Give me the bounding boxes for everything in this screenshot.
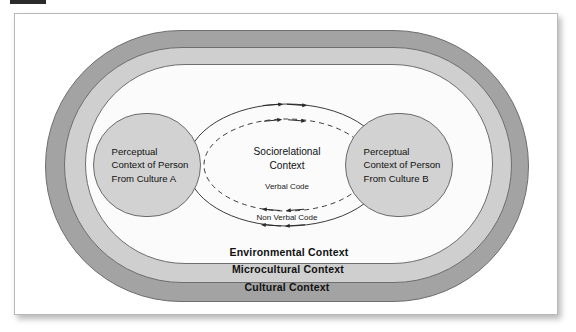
nonverbal-arrow-top-left [263, 104, 281, 105]
scan-edge-artifact [10, 0, 46, 4]
perceptual-context-person-a-label: Perceptual Context of Person From Cultur… [106, 145, 189, 185]
perceptual-context-person-a: Perceptual Context of Person From Cultur… [93, 113, 201, 217]
figure-frame: Cultural Context Microcultural Context E… [14, 13, 558, 315]
verbal-code-label: Verbal Code [207, 182, 367, 191]
nonverbal-code-label: Non Verbal Code [207, 213, 367, 222]
sociorelational-context-label: Sociorelational Context [219, 145, 355, 173]
verbal-arrow-bottom-right [288, 209, 304, 210]
verbal-arrow-bottom-left [264, 209, 280, 210]
nonverbal-arrow-bottom-left [263, 225, 281, 226]
perceptual-context-person-b: Perceptual Context of Person From Cultur… [345, 113, 453, 217]
perceptual-context-person-b-label: Perceptual Context of Person From Cultur… [358, 145, 441, 185]
